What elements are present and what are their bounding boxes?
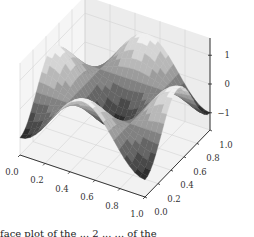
- x-tick-label: 0.4: [55, 184, 69, 194]
- z-tick-label: 1: [225, 50, 230, 60]
- z-tick-label: 0: [225, 79, 230, 89]
- y-tick-label: 1.0: [219, 140, 233, 150]
- x-tick-label: 0.6: [80, 192, 94, 202]
- y-tick-label: 0.6: [193, 167, 207, 177]
- y-tick-label: 0.0: [154, 207, 168, 217]
- y-tick-label: 0.8: [206, 153, 220, 163]
- x-tick-label: 1.0: [130, 209, 144, 219]
- y-tick-label: 0.2: [167, 194, 181, 204]
- z-axis-tick-labels: −101: [208, 50, 230, 118]
- surface-plot-3d: 0.00.20.40.60.81.0 0.00.20.40.60.81.0 −1…: [0, 0, 254, 237]
- figure-caption: face plot of the ... 2 ... ... of the: [0, 227, 254, 237]
- x-tick-label: 0.8: [105, 201, 119, 211]
- y-tick-label: 0.4: [180, 180, 194, 190]
- z-tick-label: −1: [217, 108, 230, 118]
- x-tick-label: 0.2: [30, 175, 44, 185]
- x-tick-label: 0.0: [5, 167, 19, 177]
